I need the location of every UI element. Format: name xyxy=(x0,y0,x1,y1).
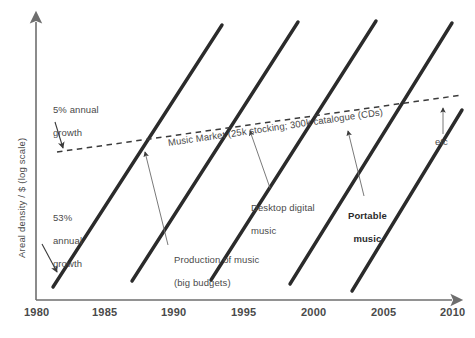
x-tick-label-2010: 2010 xyxy=(440,306,465,318)
x-tick-label-2005: 2005 xyxy=(371,306,396,318)
annotation-growth-53-line3: growth xyxy=(53,258,82,269)
annotation-production-line1: Production of music xyxy=(174,254,259,265)
annotation-production-line2: (big budgets) xyxy=(174,277,231,288)
annotation-etc: etc xyxy=(435,136,448,148)
annotation-portable-line1: Portable xyxy=(348,210,387,221)
annotation-growth-5: 5% annual growth xyxy=(42,92,99,150)
y-axis-title: Areal density / $ (log scale) xyxy=(16,138,27,258)
annotation-desktop-digital-music: Desktop digital music xyxy=(240,190,315,248)
annotation-portable-line2: music xyxy=(353,233,381,244)
x-tick-label-1980: 1980 xyxy=(24,306,49,318)
annotation-growth-5-line1: 5% annual xyxy=(53,104,99,115)
annotation-growth-53-line1: 53% xyxy=(53,212,72,223)
annotation-desktop-line2: music xyxy=(251,225,276,236)
x-tick-label-2000: 2000 xyxy=(301,306,326,318)
annotation-desktop-line1: Desktop digital xyxy=(251,202,315,213)
x-tick-label-1995: 1995 xyxy=(231,306,256,318)
annotation-portable-music: Portable music xyxy=(337,198,387,256)
desktop-digital-music-arrow xyxy=(250,131,270,188)
chart-figure: Areal density / $ (log scale) 1980 1985 … xyxy=(0,0,475,338)
annotation-growth-5-line2: growth xyxy=(53,127,82,138)
production-of-music-arrow xyxy=(145,152,168,245)
x-tick-label-1985: 1985 xyxy=(92,306,117,318)
annotation-growth-53-line2: annual xyxy=(53,235,82,246)
annotation-growth-53: 53% annual growth xyxy=(42,200,82,281)
x-tick-label-1990: 1990 xyxy=(161,306,186,318)
annotation-production-of-music: Production of music (big budgets) xyxy=(163,242,259,300)
